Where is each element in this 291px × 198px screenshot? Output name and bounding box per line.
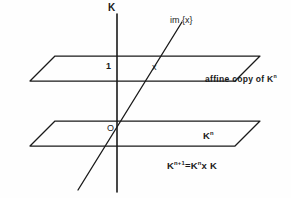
- k-axis-label: K: [108, 3, 115, 13]
- affine-copy-text: affine copy of K: [205, 74, 274, 84]
- kn-exponent: n: [210, 130, 214, 136]
- lower-plane-kn: [30, 121, 260, 146]
- formula-k2: K: [191, 160, 198, 171]
- im-x-label: im {x}: [170, 16, 193, 25]
- formula-times: x: [202, 160, 207, 171]
- kn-plane-label: Kn: [203, 131, 213, 141]
- formula-k1: K: [167, 160, 174, 171]
- x-point-label: x: [152, 63, 157, 72]
- formula-k3: K: [210, 160, 217, 171]
- affine-copy-exponent: n: [274, 73, 278, 79]
- kn-base: K: [203, 130, 210, 141]
- origin-label: O: [107, 124, 114, 133]
- product-formula-label: Kn+1=Knx K: [167, 161, 217, 171]
- diagram-canvas: [0, 0, 291, 198]
- formula-exp1: n+1: [174, 160, 185, 166]
- unit-point-label: 1: [106, 62, 111, 71]
- math-diagram: K im {x} 1 x affine copy of Kn O Kn Kn+1…: [0, 0, 291, 198]
- affine-copy-label: affine copy of Kn: [205, 75, 277, 84]
